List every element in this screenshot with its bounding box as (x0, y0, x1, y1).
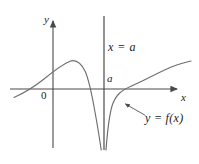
curve-left-branch (14, 61, 101, 150)
function-equation-label: y = f(x) (145, 112, 183, 124)
origin-label: 0 (41, 90, 47, 101)
y-axis-label: y (44, 14, 49, 25)
curve-right-branch (106, 61, 191, 150)
a-value-label: a (107, 73, 113, 84)
function-label-leader-line (126, 104, 146, 116)
asymptote-equation-label: x = a (108, 41, 136, 53)
math-graph-figure: y x 0 x = a a y = f(x) (0, 0, 199, 164)
graph-canvas (0, 0, 199, 164)
x-axis-label: x (181, 92, 186, 103)
